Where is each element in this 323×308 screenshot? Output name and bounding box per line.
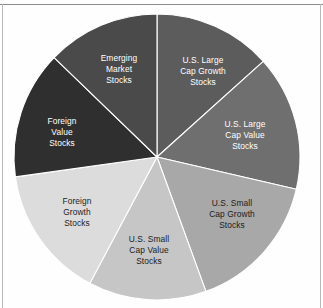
label-line: Emerging bbox=[101, 53, 138, 63]
label-line: U.S. Large bbox=[224, 119, 265, 129]
pie-slice-label-foreign-value: ForeignValueStocks bbox=[47, 116, 76, 148]
label-line: Stocks bbox=[190, 77, 216, 87]
label-line: Growth bbox=[63, 207, 91, 217]
pie-slice-label-foreign-growth: ForeignGrowthStocks bbox=[62, 196, 91, 228]
label-line: Stocks bbox=[106, 75, 132, 85]
label-line: Foreign bbox=[47, 116, 76, 126]
label-line: U.S. Large bbox=[182, 55, 223, 65]
label-line: Stocks bbox=[49, 138, 75, 148]
label-line: Value bbox=[51, 127, 73, 137]
label-line: U.S. Small bbox=[212, 198, 253, 208]
label-line: Cap Value bbox=[129, 245, 169, 255]
label-line: Market bbox=[106, 64, 133, 74]
label-line: Foreign bbox=[62, 196, 91, 206]
label-line: Cap Growth bbox=[180, 66, 226, 76]
label-line: Stocks bbox=[219, 220, 245, 230]
label-line: Stocks bbox=[64, 218, 90, 228]
label-line: U.S. Small bbox=[129, 234, 170, 244]
label-line: Stocks bbox=[136, 256, 162, 266]
label-line: Cap Growth bbox=[209, 209, 255, 219]
chart-figure: U.S. LargeCap GrowthStocksU.S. LargeCap … bbox=[0, 0, 323, 308]
label-line: Cap Value bbox=[225, 130, 265, 140]
label-line: Stocks bbox=[232, 141, 258, 151]
pie-chart: U.S. LargeCap GrowthStocksU.S. LargeCap … bbox=[0, 0, 323, 308]
